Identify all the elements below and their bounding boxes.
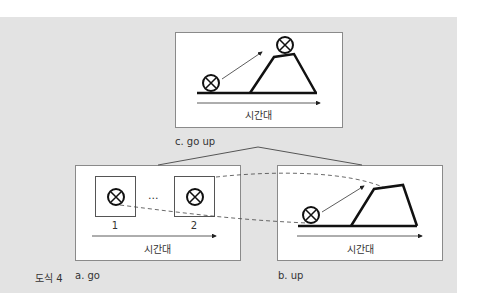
circled-x-icon bbox=[277, 37, 293, 53]
hill-shape bbox=[351, 185, 417, 226]
circled-x-icon bbox=[187, 189, 203, 205]
diagram-lines bbox=[0, 0, 483, 308]
dashed-link-top bbox=[216, 173, 385, 188]
connector-line bbox=[158, 147, 362, 165]
circled-x-icon bbox=[108, 189, 124, 205]
move-arrow bbox=[222, 52, 262, 79]
circled-x-icon bbox=[303, 207, 319, 223]
dashed-link-bottom bbox=[120, 205, 307, 223]
circled-x-icon bbox=[203, 75, 219, 91]
move-arrow bbox=[322, 186, 364, 212]
hill-shape bbox=[250, 54, 316, 93]
